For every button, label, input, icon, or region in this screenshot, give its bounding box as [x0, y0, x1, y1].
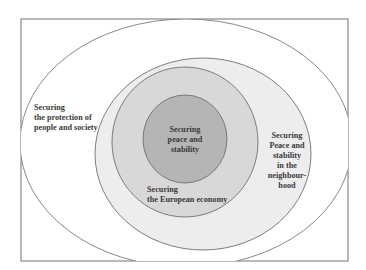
- label-line: peace and: [155, 135, 215, 145]
- label-european-economy: Securing the European economy: [147, 185, 227, 205]
- label-line: hood: [258, 181, 316, 191]
- label-line: stability: [258, 151, 316, 161]
- label-line: Securing: [147, 185, 227, 195]
- label-line: Peace and: [258, 141, 316, 151]
- label-line: people and society: [34, 123, 98, 133]
- label-line: in the: [258, 161, 316, 171]
- label-people-society: Securing the protection of people and so…: [34, 103, 98, 133]
- label-neighbourhood: Securing Peace and stability in the neig…: [258, 131, 316, 191]
- label-line: neighbour-: [258, 171, 316, 181]
- label-line: Securing: [155, 125, 215, 135]
- label-line: Securing: [258, 131, 316, 141]
- label-core: Securing peace and stability: [155, 125, 215, 155]
- label-line: Securing: [34, 103, 98, 113]
- label-line: the protection of: [34, 113, 98, 123]
- label-line: stability: [155, 145, 215, 155]
- label-line: the European economy: [147, 195, 227, 205]
